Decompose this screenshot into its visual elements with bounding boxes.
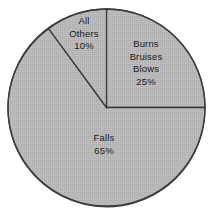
- pie-label-falls-line1: Falls: [74, 132, 134, 145]
- pie-label-falls-value: 65%: [74, 145, 134, 158]
- pie-label-all-others-line2: Others: [56, 28, 112, 41]
- pie-label-burns-line2: Bruises: [117, 51, 175, 64]
- pie-label-all-others: All Others 10%: [56, 15, 112, 53]
- pie-label-falls: Falls 65%: [74, 132, 134, 157]
- pie-label-burns-line3: Blows: [117, 63, 175, 76]
- pie-chart-figure: All Others 10% Burns Bruises Blows 25% F…: [0, 0, 214, 217]
- pie-label-burns-line1: Burns: [117, 38, 175, 51]
- pie-label-all-others-value: 10%: [56, 40, 112, 53]
- pie-label-burns-bruises-blows: Burns Bruises Blows 25%: [117, 38, 175, 88]
- pie-label-all-others-line1: All: [56, 15, 112, 28]
- pie-label-burns-value: 25%: [117, 76, 175, 89]
